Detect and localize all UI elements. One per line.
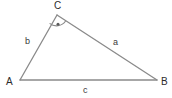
- side-label-c: c: [83, 86, 88, 95]
- vertex-label-a: A: [6, 77, 13, 87]
- vertex-label-c: C: [54, 1, 61, 11]
- side-label-a: a: [113, 38, 118, 47]
- triangle-diagram: A B C a b c: [0, 0, 172, 98]
- angle-dot-at-c-icon: [57, 23, 60, 26]
- side-a-line-cb: [57, 15, 157, 80]
- side-label-b: b: [25, 37, 30, 46]
- vertex-label-b: B: [161, 77, 168, 87]
- triangle-svg-canvas: [0, 0, 172, 98]
